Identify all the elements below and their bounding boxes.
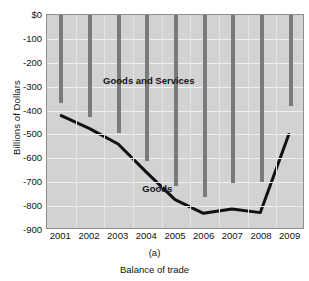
- gridline-vertical: [219, 15, 220, 228]
- y-axis-tick-label: -500: [23, 128, 42, 139]
- x-axis-tick-label: 2001: [50, 230, 71, 241]
- x-axis-tick-label: 2007: [222, 230, 243, 241]
- y-axis-tick-label: -900: [23, 224, 42, 235]
- gridline-horizontal: [47, 206, 303, 207]
- x-axis-tick-label: 2009: [279, 230, 300, 241]
- y-axis-tick-label: -200: [23, 56, 42, 67]
- y-axis-tick-label: $0: [31, 9, 42, 20]
- bar-goods-and-services: [231, 15, 235, 183]
- bar-goods-and-services: [289, 15, 293, 106]
- gridline-vertical: [104, 15, 105, 228]
- plot-area: Goods and ServicesGoods: [46, 14, 304, 229]
- bar-goods-and-services: [59, 15, 63, 103]
- x-axis-tick-label: 2002: [78, 230, 99, 241]
- x-axis-title: Balance of trade: [0, 264, 309, 275]
- y-axis-tick-label: -600: [23, 152, 42, 163]
- gridline-vertical: [76, 15, 77, 228]
- bar-goods-and-services: [203, 15, 207, 197]
- bar-goods-and-services: [174, 15, 178, 186]
- y-axis-tick-label: -100: [23, 32, 42, 43]
- gridline-vertical: [162, 15, 163, 228]
- gridline-vertical: [133, 15, 134, 228]
- series-annotation-label: Goods: [142, 182, 172, 193]
- x-axis-tick-label: 2003: [107, 230, 128, 241]
- bar-goods-and-services: [145, 15, 149, 161]
- x-axis-tick-label: 2006: [193, 230, 214, 241]
- bar-goods-and-services: [88, 15, 92, 117]
- y-axis-tick-label: -800: [23, 200, 42, 211]
- x-axis-tick-label: 2005: [164, 230, 185, 241]
- gridline-vertical: [248, 15, 249, 228]
- gridline-vertical: [190, 15, 191, 228]
- y-axis-tick-label: -700: [23, 176, 42, 187]
- x-axis-tick-label: 2008: [250, 230, 271, 241]
- y-axis-tick-labels: $0-100-200-300-400-500-600-700-800-900: [0, 0, 46, 281]
- panel-letter: (a): [0, 247, 309, 258]
- series-annotation-label: Goods and Services: [103, 74, 194, 85]
- bar-goods-and-services: [260, 15, 264, 182]
- chart-figure: Billions of Dollars $0-100-200-300-400-5…: [0, 0, 309, 281]
- x-axis-tick-labels: 200120022003200420052006200720082009: [46, 230, 304, 246]
- x-axis-tick-label: 2004: [136, 230, 157, 241]
- y-axis-tick-label: -300: [23, 80, 42, 91]
- y-axis-tick-label: -400: [23, 104, 42, 115]
- gridline-vertical: [276, 15, 277, 228]
